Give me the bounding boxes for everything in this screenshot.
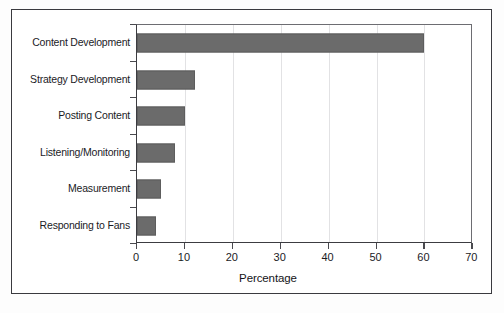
category-label: Posting Content: [8, 109, 130, 121]
plot-area: [136, 24, 472, 243]
x-axis-tick-label: 40: [321, 251, 333, 263]
category-label: Listening/Monitoring: [8, 146, 130, 158]
bar-row: [137, 208, 471, 245]
x-axis-tick: [376, 243, 377, 249]
bar-row: [137, 62, 471, 99]
bar-listening-monitoring: [137, 143, 175, 162]
category-label: Content Development: [8, 36, 130, 48]
bar-chart-figure: Content Development Strategy Development…: [0, 0, 504, 313]
x-axis-tick: [184, 243, 185, 249]
x-axis-tick: [471, 243, 472, 249]
x-axis-title-wrapper: Percentage: [0, 272, 504, 284]
x-axis-tick: [423, 243, 424, 249]
bar-row: [137, 135, 471, 172]
bar-content-development: [137, 34, 424, 53]
category-axis-labels: Content Development Strategy Development…: [4, 0, 130, 313]
x-axis-tick: [136, 243, 137, 249]
bar-strategy-development: [137, 70, 195, 89]
bar-row: [137, 98, 471, 135]
category-label: Responding to Fans: [8, 219, 130, 231]
x-axis-tick-label: 30: [274, 251, 286, 263]
category-label: Strategy Development: [8, 73, 130, 85]
category-label: Measurement: [8, 182, 130, 194]
x-axis-title: Percentage: [239, 272, 297, 284]
bar-row: [137, 171, 471, 208]
bar-measurement: [137, 180, 161, 199]
x-axis-tick-label: 60: [417, 251, 429, 263]
x-axis-tick-label: 70: [465, 251, 477, 263]
x-axis-tick: [232, 243, 233, 249]
bar-row: [137, 25, 471, 62]
x-axis-tick: [328, 243, 329, 249]
x-axis-tick-label: 10: [178, 251, 190, 263]
bar-responding-to-fans: [137, 216, 156, 235]
bar-posting-content: [137, 107, 185, 126]
x-axis-tick-label: 50: [369, 251, 381, 263]
x-axis-tick-label: 0: [133, 251, 139, 263]
x-axis-tick-label: 20: [226, 251, 238, 263]
x-axis-tick: [280, 243, 281, 249]
